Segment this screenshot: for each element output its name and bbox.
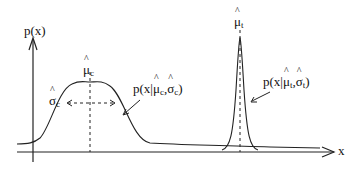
narrow-mean-label: μt — [234, 15, 244, 30]
narrow-curve-annotation: p(x|μt,σt) — [263, 75, 310, 90]
x-axis-label: x — [338, 144, 345, 157]
wide-sigma-label: σc — [49, 94, 60, 109]
y-axis-label: p(x) — [24, 24, 46, 37]
wide-mean-label: μc — [83, 63, 94, 78]
narrow-annotation-arrow — [252, 92, 270, 101]
wide-curve-annotation: p(x|μc,σc) — [133, 82, 183, 97]
wide-annotation-arrow — [124, 100, 140, 114]
